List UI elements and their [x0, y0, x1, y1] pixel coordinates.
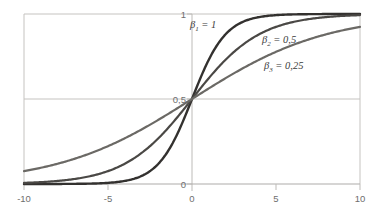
beta3-value: = 0,25	[273, 60, 304, 71]
x-tick-label--5: -5	[104, 193, 112, 204]
y-tick-label-0.5: 0,5	[173, 94, 186, 105]
x-tick-label-5: 5	[273, 193, 278, 204]
y-tick-label-0: 0	[181, 179, 186, 190]
logistic-curves-chart: 1 0,5 0 -10 -5 0 5 10 β1 = 1 β2 = 0,5 β3…	[0, 0, 385, 219]
x-tick-label--10: -10	[17, 193, 31, 204]
y-tick-label-1: 1	[181, 9, 186, 20]
beta1-value: = 1	[199, 19, 217, 30]
chart-canvas: 1 0,5 0 -10 -5 0 5 10 β1 = 1 β2 = 0,5 β3…	[0, 0, 385, 219]
x-tick-label-0: 0	[189, 193, 194, 204]
x-tick-label-10: 10	[355, 193, 366, 204]
beta2-value: = 0,5	[271, 34, 296, 45]
